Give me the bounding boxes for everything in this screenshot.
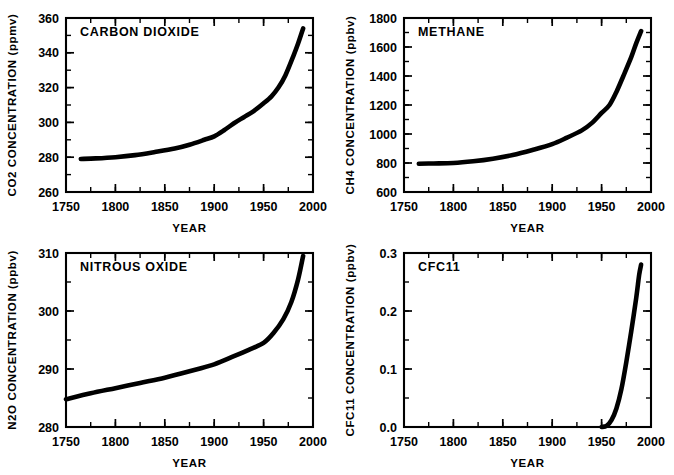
y-tick-label: 800 <box>376 157 397 171</box>
x-tick-label: 1750 <box>52 435 80 449</box>
y-tick-label: 1000 <box>369 128 397 142</box>
x-axis-title: YEAR <box>510 222 544 234</box>
y-tick-label: 340 <box>38 46 59 60</box>
y-axis: 0.00.10.20.3 <box>380 247 651 435</box>
x-tick-label: 1950 <box>250 200 278 214</box>
x-axis: 175018001850190019502000 <box>390 253 665 449</box>
panel-title: METHANE <box>418 25 485 39</box>
y-axis-title: CO2 CONCENTRATION (ppmv) <box>6 14 18 197</box>
x-axis: 175018001850190019502000 <box>52 18 327 214</box>
y-tick-label: 0.1 <box>380 363 397 377</box>
y-tick-label: 320 <box>38 81 59 95</box>
x-minor-ticks <box>66 18 313 192</box>
y-tick-label: 360 <box>38 12 59 26</box>
x-tick-label: 1950 <box>588 435 616 449</box>
y-tick-label: 0.0 <box>380 421 397 435</box>
x-tick-label: 1750 <box>52 200 80 214</box>
y-minor-ticks <box>404 18 651 192</box>
x-tick-label: 1900 <box>538 435 566 449</box>
plot-frame <box>66 18 313 192</box>
plot-frame <box>404 253 651 427</box>
panel-title: NITROUS OXIDE <box>80 260 188 274</box>
panel-nitrous-oxide: 175018001850190019502000280290300310YEAR… <box>0 235 336 475</box>
x-axis: 175018001850190019502000 <box>390 18 665 214</box>
y-tick-label: 1800 <box>369 12 397 26</box>
x-tick-label: 1950 <box>588 200 616 214</box>
y-tick-label: 600 <box>376 186 397 200</box>
chart-cfc11: 1750180018501900195020000.00.10.20.3YEAR… <box>338 235 674 475</box>
x-axis-title: YEAR <box>172 222 206 234</box>
data-curve-nitrous-oxide <box>66 256 303 399</box>
y-minor-ticks <box>404 253 651 427</box>
x-tick-label: 2000 <box>637 200 665 214</box>
y-tick-label: 1600 <box>369 41 397 55</box>
x-axis: 175018001850190019502000 <box>52 253 327 449</box>
plot-frame <box>404 18 651 192</box>
y-tick-label: 300 <box>38 116 59 130</box>
x-tick-label: 2000 <box>637 435 665 449</box>
x-tick-label: 1900 <box>200 435 228 449</box>
y-tick-label: 1200 <box>369 99 397 113</box>
x-minor-ticks <box>404 18 651 192</box>
y-tick-label: 0.2 <box>380 305 397 319</box>
chart-carbon-dioxide: 1750180018501900195020002602803003203403… <box>0 0 336 240</box>
y-tick-label: 280 <box>38 151 59 165</box>
greenhouse-gas-figure: 1750180018501900195020002602803003203403… <box>0 0 674 475</box>
x-tick-label: 1750 <box>390 435 418 449</box>
y-tick-label: 1400 <box>369 70 397 84</box>
data-curve-cfc11 <box>602 265 642 427</box>
x-tick-label: 1900 <box>200 200 228 214</box>
x-minor-ticks <box>404 253 651 427</box>
x-tick-label: 1750 <box>390 200 418 214</box>
y-tick-label: 300 <box>38 305 59 319</box>
panel-title: CFC11 <box>418 260 460 274</box>
y-minor-ticks <box>66 253 313 427</box>
panel-methane: 1750180018501900195020006008001000120014… <box>338 0 674 240</box>
y-tick-label: 260 <box>38 186 59 200</box>
chart-nitrous-oxide: 175018001850190019502000280290300310YEAR… <box>0 235 336 475</box>
panel-cfc11: 1750180018501900195020000.00.10.20.3YEAR… <box>338 235 674 475</box>
x-tick-label: 1850 <box>151 200 179 214</box>
x-minor-ticks <box>66 253 313 427</box>
x-tick-label: 1850 <box>151 435 179 449</box>
chart-methane: 1750180018501900195020006008001000120014… <box>338 0 674 240</box>
x-axis-title: YEAR <box>510 457 544 469</box>
x-axis-title: YEAR <box>172 457 206 469</box>
y-axis: 260280300320340360 <box>38 12 313 200</box>
y-tick-label: 0.3 <box>380 247 397 261</box>
y-tick-label: 310 <box>38 247 59 261</box>
y-tick-label: 290 <box>38 363 59 377</box>
x-tick-label: 1800 <box>439 435 467 449</box>
x-tick-label: 1950 <box>250 435 278 449</box>
y-tick-label: 280 <box>38 421 59 435</box>
panel-title: CARBON DIOXIDE <box>80 25 200 39</box>
x-tick-label: 2000 <box>299 435 327 449</box>
y-axis: 280290300310 <box>38 247 313 435</box>
x-tick-label: 2000 <box>299 200 327 214</box>
panel-carbon-dioxide: 1750180018501900195020002602803003203403… <box>0 0 336 240</box>
y-axis-title: N2O CONCENTRATION (ppbv) <box>6 250 18 430</box>
data-curve-carbon-dioxide <box>81 28 303 159</box>
x-tick-label: 1800 <box>101 435 129 449</box>
data-curve-methane <box>419 31 641 164</box>
x-tick-label: 1800 <box>101 200 129 214</box>
x-tick-label: 1800 <box>439 200 467 214</box>
plot-frame <box>66 253 313 427</box>
x-tick-label: 1850 <box>489 200 517 214</box>
y-axis-title: CH4 CONCENTRATION (ppbv) <box>344 15 356 194</box>
y-minor-ticks <box>66 18 313 192</box>
x-tick-label: 1850 <box>489 435 517 449</box>
x-tick-label: 1900 <box>538 200 566 214</box>
y-axis-title: CFC11 CONCENTRATION (ppbv) <box>344 244 356 437</box>
